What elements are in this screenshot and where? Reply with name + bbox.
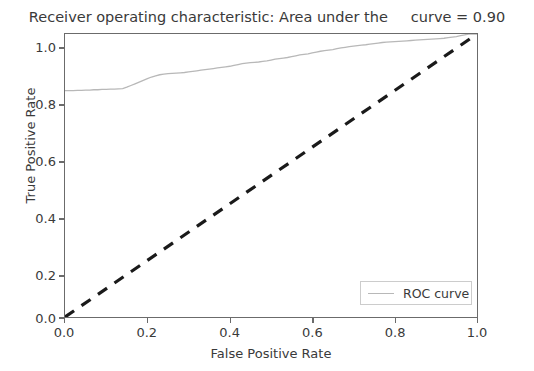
x-tick-label: 0.8 [365, 326, 425, 339]
y-tick-mark [59, 275, 64, 276]
legend-swatch-roc-curve [368, 293, 394, 294]
x-tick-mark [477, 318, 478, 323]
x-tick-mark [147, 318, 148, 323]
roc-curve-line [65, 34, 477, 91]
chart-legend: ROC curve [360, 281, 472, 305]
y-tick-label: 0.0 [0, 312, 56, 325]
x-tick-label: 0.0 [34, 326, 94, 339]
roc-chart-figure: Receiver operating characteristic: Area … [0, 0, 534, 371]
x-tick-mark [230, 318, 231, 323]
x-tick-label: 0.2 [117, 326, 177, 339]
y-tick-mark [59, 218, 64, 219]
x-tick-label: 0.4 [200, 326, 260, 339]
y-tick-label: 0.2 [0, 269, 56, 282]
x-tick-label: 0.6 [282, 326, 342, 339]
y-tick-mark [59, 47, 64, 48]
y-tick-mark [59, 161, 64, 162]
x-tick-mark [312, 318, 313, 323]
plot-svg [65, 34, 477, 317]
legend-label-roc-curve: ROC curve [403, 286, 469, 301]
x-axis-label: False Positive Rate [64, 346, 478, 361]
x-tick-mark [64, 318, 65, 323]
chart-title: Receiver operating characteristic: Area … [0, 9, 534, 25]
y-tick-mark [59, 104, 64, 105]
plot-area [64, 33, 478, 318]
x-tick-mark [395, 318, 396, 323]
chance-diagonal-line [65, 34, 477, 317]
x-tick-label: 1.0 [447, 326, 507, 339]
y-axis-label: True Positive Rate [23, 46, 38, 246]
